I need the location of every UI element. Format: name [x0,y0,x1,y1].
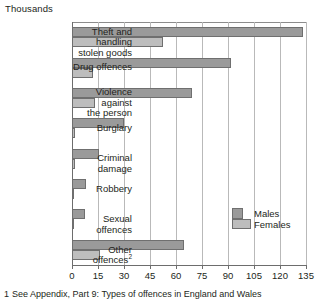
category-label-line: Drug offences [68,62,132,73]
x-tick-label-0: 0 [69,270,74,281]
category-label-3: Burglary [68,123,132,134]
x-tick-0 [72,265,73,269]
category-label-1: Drug offences [68,62,132,73]
category-label-4: Criminal damage [68,153,132,174]
category-label-6: Sexual offences [68,214,132,235]
x-tick-label-105: 105 [246,270,262,281]
x-tick-label-90: 90 [223,270,234,281]
category-label-line: Other offences2 [68,245,132,266]
category-label-line: stolen goods [68,48,132,59]
category-label-0: Theft and handlingstolen goods [68,27,132,59]
x-tick-label-15: 15 [93,270,104,281]
x-tick-label-60: 60 [171,270,182,281]
category-label-line: Burglary [68,123,132,134]
x-tick-135 [306,265,307,269]
x-tick-label-45: 45 [145,270,156,281]
x-tick-label-135: 135 [298,270,314,281]
x-tick-label-30: 30 [119,270,130,281]
legend-swatch-males [232,208,243,219]
footnote: 1See Appendix, Part 9: Types of offences… [4,289,262,299]
x-tick-90 [228,265,229,269]
legend-swatch-females [232,219,251,229]
category-label-line: the person [68,108,132,119]
footnote-text: See Appendix, Part 9: Types of offences … [12,289,262,299]
category-label-2: Violence againstthe person [68,87,132,119]
category-label-line: Robbery [68,184,132,195]
x-tick-75 [202,265,203,269]
units-label: Thousands [5,3,53,14]
x-tick-label-75: 75 [197,270,208,281]
category-label-line: Sexual offences [68,214,132,235]
category-label-5: Robbery [68,184,132,195]
category-label-line: Criminal damage [68,153,132,174]
x-tick-45 [150,265,151,269]
plot-top-rule [72,22,306,23]
x-tick-label-120: 120 [272,270,288,281]
legend-label-males: Males [254,208,279,219]
x-tick-105 [254,265,255,269]
x-tick-120 [280,265,281,269]
chart-legend: Males Females [232,208,312,234]
x-tick-30 [124,265,125,269]
category-label-line: Violence against [68,87,132,108]
footnote-marker: 1 [4,289,9,299]
x-tick-60 [176,265,177,269]
category-label-footnote-mark: 2 [128,253,132,260]
category-label-line: Theft and handling [68,27,132,48]
category-label-7: Other offences2 [68,245,132,266]
legend-label-females: Females [254,219,290,230]
x-tick-15 [98,265,99,269]
